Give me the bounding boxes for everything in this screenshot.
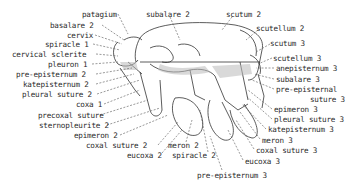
- label-subalare-3: subalare 3: [276, 76, 320, 84]
- label-meron-2: meron 2: [168, 142, 199, 150]
- label-pleural-suture-3: pleural suture 3: [274, 116, 344, 124]
- label-spiracle-1: spiracle 1: [45, 41, 89, 49]
- label-eucoxa-3: eucoxa 3: [245, 158, 280, 166]
- label-basalare-2: basalare 2: [50, 22, 94, 30]
- label-scutum-2: scutum 2: [226, 11, 261, 19]
- label-cervical-sclerite: cervical sclerite: [12, 51, 86, 59]
- label-katepisternum-2: katepisternum 2: [23, 81, 89, 89]
- label-sternopleurite-2: sternopleurite 2: [39, 122, 109, 130]
- label-pre-episternal-suture-3-line2: suture 3: [310, 96, 345, 104]
- label-scutum-3: scutum 3: [270, 40, 305, 48]
- label-anepisternum-3: anepisternum 3: [276, 65, 337, 73]
- label-pleural-suture-2: pleural suture 2: [22, 91, 92, 99]
- label-pre-episternum-2: pre-episternum 2: [16, 71, 86, 79]
- thorax-diagram: patagium basalare 2 cervix spiracle 1 ce…: [0, 0, 364, 191]
- label-pre-episternum-3: pre-episternum 3: [197, 172, 267, 180]
- label-subalare-2: subalare 2: [146, 11, 190, 19]
- label-eucoxa-2: eucoxa 2: [127, 152, 162, 160]
- label-pleuron-1: pleuron 1: [48, 61, 87, 69]
- label-cervix: cervix: [67, 32, 93, 40]
- label-katepisternum-3: katepisternum 3: [268, 126, 334, 134]
- label-pre-episternal-suture-3-line1: pre-episternal: [276, 86, 337, 94]
- label-epimeron-2: epimeron 2: [74, 132, 118, 140]
- label-precoxal-suture: precoxal suture: [38, 112, 104, 120]
- label-scutellum-2: scutellum 2: [256, 25, 304, 33]
- label-spiracle-2: spiracle 2: [172, 152, 216, 160]
- label-coxal-suture-2: coxal suture 2: [86, 142, 147, 150]
- label-epimeron-3: epimeron 3: [274, 106, 318, 114]
- label-meron-3: meron 3: [262, 137, 293, 145]
- label-coxa-1: coxa 1: [76, 101, 102, 109]
- label-coxal-suture-3: coxal suture 3: [256, 147, 317, 155]
- label-scutellum-3: scutellum 3: [273, 55, 321, 63]
- label-patagium: patagium: [82, 11, 117, 19]
